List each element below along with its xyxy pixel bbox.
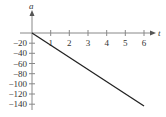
chart: t a 1 2 3 4 5 6 −20 −40 −60 −80 −100 −12… [0,0,166,117]
x-tick-label: 6 [142,38,147,48]
y-tick-label: −60 [13,59,28,69]
y-tick-label: −120 [8,89,27,99]
y-ticks: −20 −40 −60 −80 −100 −120 −140 [8,38,35,109]
x-tick-label: 5 [123,38,128,48]
x-axis-arrow-icon [150,31,156,36]
y-tick-label: −80 [13,69,28,79]
y-tick-label: −100 [8,79,27,89]
x-tick-label: 2 [67,38,72,48]
x-axis-label: t [158,28,161,38]
y-tick-label: −140 [8,99,27,109]
y-tick-label: −40 [13,48,28,58]
x-tick-label: 4 [104,38,109,48]
x-tick-label: 3 [86,38,91,48]
y-tick-label: −20 [13,38,28,48]
y-axis-label: a [29,1,34,11]
